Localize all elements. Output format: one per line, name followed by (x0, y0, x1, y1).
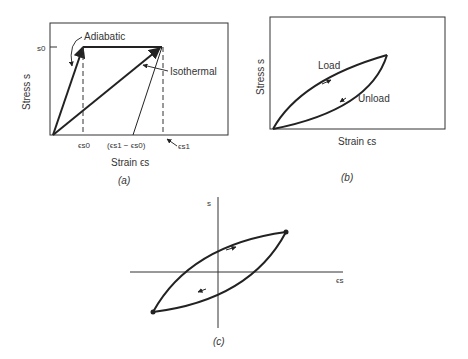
loop-bottom-point (151, 310, 156, 315)
x-tick-eps1: ϵs1 (178, 142, 191, 151)
panel-a: s0 Adiabatic Isothermal Stress s ϵs0 (ϵs… (21, 23, 228, 186)
panel-b: Load Unload Stress s Strain ϵs (b) (255, 17, 445, 183)
annotation-adiabatic: Adiabatic (84, 31, 125, 42)
x-axis-label: Strain ϵs (111, 157, 149, 168)
x-tick-eps0: ϵs0 (78, 141, 91, 150)
y-tick-s0: s0 (37, 44, 46, 53)
y-axis-label: s (207, 199, 211, 208)
caption-a: (a) (118, 175, 130, 186)
figure-canvas: s0 Adiabatic Isothermal Stress s ϵs0 (ϵs… (0, 0, 468, 359)
unload-arrow (340, 98, 346, 102)
eps1-pointer (167, 139, 177, 146)
annotation-unload: Unload (358, 93, 390, 104)
lower-arrow (198, 289, 206, 292)
isothermal-line (53, 48, 160, 135)
x-tick-diff: (ϵs1 − ϵs0) (107, 141, 146, 150)
panel-c: s ϵs (c) (130, 197, 344, 347)
x-axis-label: Strain ϵs (338, 136, 376, 147)
loop-top-point (284, 230, 289, 235)
caption-c: (c) (213, 336, 225, 347)
annotation-isothermal: Isothermal (170, 66, 217, 77)
x-axis-label: ϵs (336, 276, 344, 285)
panel-b-frame (270, 17, 445, 129)
caption-b: (b) (341, 172, 353, 183)
adiabatic-pointer (71, 37, 82, 66)
y-axis-label: Stress s (21, 74, 32, 110)
y-axis-label: Stress s (255, 59, 266, 95)
unload-line (133, 47, 162, 135)
annotation-load: Load (318, 60, 340, 71)
